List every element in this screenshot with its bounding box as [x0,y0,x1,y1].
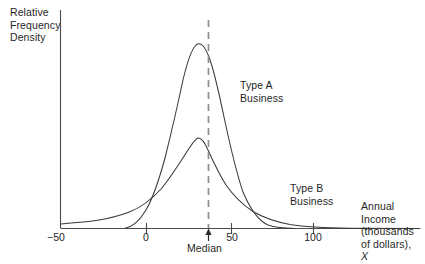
annotation-type-a-business: Type ABusiness [240,79,283,104]
x-tick-label-100: 100 [293,231,333,243]
x-axis-label-line-4: of dollars), [361,238,411,250]
y-axis-label-line-3: Density [10,31,46,43]
x-axis-label-line-1: Annual [361,200,394,212]
type-a-label-line-1: Type A [240,79,273,91]
x-tick-label-0: 0 [126,231,166,243]
y-axis-label: RelativeFrequencyDensity [10,6,61,44]
x-axis-label-line-2: Income [361,213,396,225]
median-label: Median [187,242,222,255]
annotation-type-b-business: Type BBusiness [290,182,333,207]
y-axis-label-line-1: Relative [10,6,49,18]
median-arrow-icon [205,229,211,242]
type-a-label-line-2: Business [240,92,283,104]
type-b-label-line-2: Business [290,195,333,207]
x-axis-label: AnnualIncome(thousandsof dollars),X [361,200,414,263]
x-tick-label-neg50: −50 [36,231,76,243]
y-axis-label-line-2: Frequency [10,19,61,31]
x-axis-label-line-3: (thousands [361,225,414,237]
x-axis-variable-symbol: X [361,250,368,262]
x-tick-label-50: 50 [212,231,252,243]
type-b-label-line-1: Type B [290,182,323,194]
curve-type-a-business [126,44,296,229]
